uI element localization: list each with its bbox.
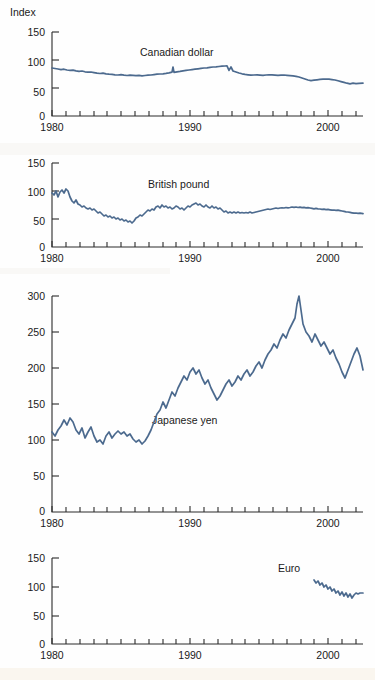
panel-japanese-yen: 300 250 200 150 100 50 0 — [0, 284, 375, 540]
xtick-1980: 1980 — [40, 649, 64, 661]
axes — [52, 558, 363, 644]
xtick-1980: 1980 — [40, 517, 64, 529]
panel-canadian-dollar: Index 150 100 50 0 — [0, 0, 375, 136]
xtick-1990: 1990 — [178, 252, 202, 264]
panel-1-svg: Index 150 100 50 0 — [0, 0, 375, 136]
ytick-100: 100 — [27, 581, 45, 593]
xtick-marks — [52, 241, 356, 247]
ytick-50: 50 — [33, 86, 45, 98]
y-axis-title: Index — [10, 6, 36, 18]
xtick-marks — [52, 110, 356, 116]
series-label-euro: Euro — [278, 562, 300, 574]
axes — [52, 296, 363, 512]
ytick-150: 150 — [27, 552, 45, 564]
exchange-rate-index-figure: Index 150 100 50 0 — [0, 0, 375, 680]
xtick-marks — [52, 638, 356, 644]
ytick-50: 50 — [33, 470, 45, 482]
panel-2-svg: 150 100 50 0 — [0, 145, 375, 275]
xtick-2000: 2000 — [316, 121, 340, 133]
xtick-marks — [52, 506, 356, 512]
xtick-2000: 2000 — [316, 517, 340, 529]
panel-euro: 150 100 50 0 — [0, 548, 375, 680]
xtick-1990: 1990 — [178, 517, 202, 529]
ytick-300: 300 — [27, 290, 45, 302]
ytick-50: 50 — [33, 215, 45, 227]
ytick-0: 0 — [39, 505, 45, 517]
xtick-1980: 1980 — [40, 252, 64, 264]
ytick-150: 150 — [27, 398, 45, 410]
dataline-british-pound — [52, 189, 363, 223]
series-label-japanese-yen: Japanese yen — [152, 414, 218, 426]
xtick-1990: 1990 — [178, 649, 202, 661]
xtick-2000: 2000 — [316, 252, 340, 264]
ytick-150: 150 — [27, 26, 45, 38]
panel-british-pound: 150 100 50 0 — [0, 145, 375, 275]
ytick-150: 150 — [27, 157, 45, 169]
xtick-2000: 2000 — [316, 649, 340, 661]
dataline-euro — [314, 580, 363, 598]
dataline-canadian-dollar — [52, 66, 363, 84]
ytick-200: 200 — [27, 362, 45, 374]
series-label-british-pound: British pound — [148, 178, 209, 190]
panel-4-svg: 150 100 50 0 — [0, 548, 375, 680]
series-label-canadian-dollar: Canadian dollar — [140, 46, 214, 58]
ytick-100: 100 — [27, 434, 45, 446]
xtick-1990: 1990 — [178, 121, 202, 133]
ytick-100: 100 — [27, 186, 45, 198]
panel-3-svg: 300 250 200 150 100 50 0 — [0, 284, 375, 540]
ytick-50: 50 — [33, 610, 45, 622]
ytick-100: 100 — [27, 56, 45, 68]
xtick-1980: 1980 — [40, 121, 64, 133]
ytick-250: 250 — [27, 326, 45, 338]
axes — [52, 163, 363, 247]
